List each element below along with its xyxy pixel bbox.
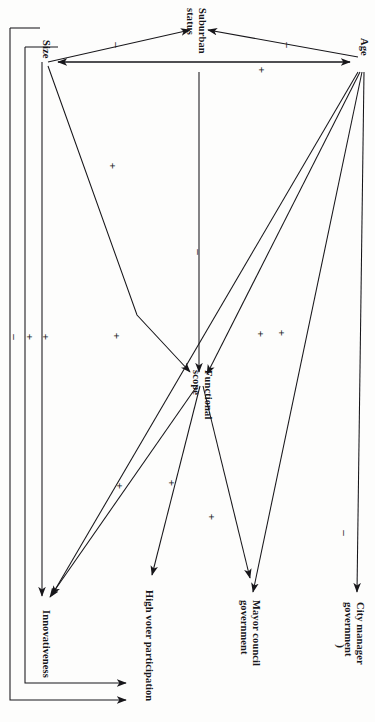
edge-size-functional-scope — [48, 66, 190, 372]
diagram-edges — [0, 0, 375, 722]
edge-sign-size-suburban-status: – — [111, 42, 123, 48]
edge-age-functional-scope — [207, 72, 360, 374]
node-city-manager-government[interactable]: City manager government — [343, 602, 366, 665]
node-suburban-status-label: Suburban — [197, 8, 208, 54]
node-mayor-council-government[interactable]: Mayor council government — [239, 600, 262, 666]
edge-sign-age-mayor-council-government: + — [255, 331, 267, 337]
edge-functional-scope-innovativeness — [50, 386, 197, 597]
edge-sign-functional-scope-innovativeness: + — [114, 483, 126, 489]
node-high-voter-participation[interactable]: High voter participation — [144, 590, 156, 701]
edge-sign-age-functional-scope: + — [276, 330, 288, 336]
node-city-manager-government-label2: government — [344, 602, 355, 657]
diagram-canvas: Suburban status Size Age Functional scop… — [0, 0, 375, 722]
edge-sign-size-innovativeness: + — [40, 334, 52, 340]
edge-age-innovativeness — [52, 72, 358, 595]
node-high-voter-participation-label: High voter participation — [144, 590, 155, 701]
edge-sign-functional-scope-mayor-council-government: + — [206, 514, 218, 520]
edge-sign-age-suburban-status: – — [282, 42, 294, 48]
stray-paren-mark: ) — [335, 644, 347, 648]
node-functional-scope-label: Functional — [203, 370, 214, 419]
node-mayor-council-government-label: Mayor council — [251, 600, 262, 666]
node-mayor-council-government-label2: government — [240, 600, 251, 655]
edge-age-mayor-council-government — [253, 72, 362, 592]
edge-sign-size-functional-scope: + — [107, 163, 119, 169]
edge-size-to-hvp-loop — [10, 28, 126, 700]
node-size-label: Size — [41, 40, 52, 58]
edge-sign-age-innovativeness: + — [111, 333, 123, 339]
node-innovativeness[interactable]: Innovativeness — [41, 610, 53, 678]
edge-sign-size-high-voter-participation: + — [24, 334, 36, 340]
edge-sign-functional-scope-high-voter-participation: + — [166, 480, 178, 486]
node-city-manager-government-label: City manager — [355, 602, 366, 665]
node-age[interactable]: Age — [359, 38, 371, 56]
edge-sign-suburban-functional-scope: – — [193, 249, 205, 255]
node-suburban-status-label2: status — [186, 8, 197, 35]
edge-sign-age-city-manager-government: – — [339, 530, 351, 536]
edge-sign-suburban-innovativeness: – — [9, 334, 21, 340]
node-age-label: Age — [359, 38, 370, 56]
edge-age-city-manager-government — [357, 72, 364, 592]
node-functional-scope[interactable]: Functional scope — [191, 370, 214, 419]
edge-sign-age-size: + — [256, 67, 268, 73]
node-innovativeness-label: Innovativeness — [41, 610, 52, 678]
node-size[interactable]: Size — [41, 40, 53, 58]
node-suburban-status[interactable]: Suburban status — [185, 8, 208, 54]
node-functional-scope-label2: scope — [192, 370, 203, 395]
